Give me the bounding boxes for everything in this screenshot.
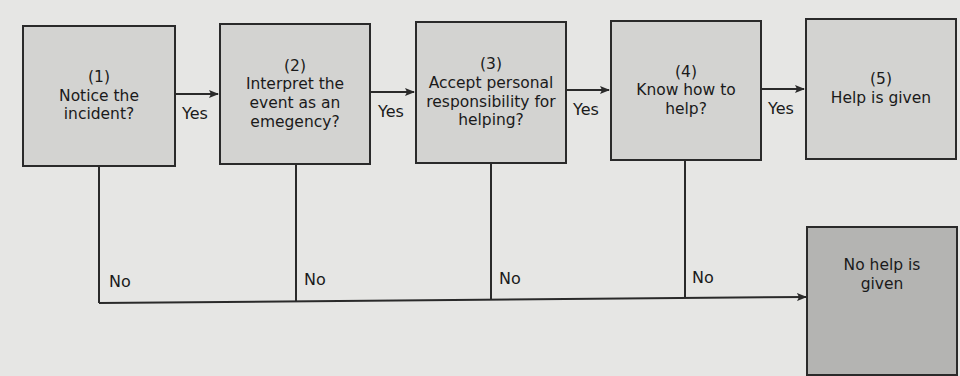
- no-help-box: No help is given: [806, 226, 958, 376]
- no-label-1: No: [109, 274, 131, 290]
- no-label-4: No: [692, 270, 714, 286]
- step-box-5: (5) Help is given: [805, 18, 957, 160]
- step-number: (2): [284, 57, 306, 76]
- step-number: (4): [675, 63, 697, 82]
- step-box-2: (2) Interpret the event as an emegency?: [219, 23, 371, 165]
- no-bus-arrow: [99, 297, 806, 303]
- step-box-3: (3) Accept personal responsibility for h…: [415, 21, 567, 164]
- step-box-4: (4) Know how to help?: [610, 20, 762, 161]
- step-text: Interpret the event as an emegency?: [246, 75, 344, 131]
- step-box-1: (1) Notice the incident?: [22, 25, 176, 167]
- step-text: Accept personal responsibility for helpi…: [426, 74, 555, 130]
- yes-label-2: Yes: [378, 104, 404, 120]
- no-help-text: No help is given: [844, 256, 921, 293]
- step-number: (3): [480, 55, 502, 74]
- step-text: Help is given: [831, 89, 931, 108]
- no-label-3: No: [499, 271, 521, 287]
- step-number: (1): [88, 68, 110, 87]
- step-text: Notice the incident?: [59, 87, 139, 124]
- step-text: Know how to help?: [636, 81, 736, 118]
- yes-label-1: Yes: [182, 106, 208, 122]
- yes-label-4: Yes: [768, 101, 794, 117]
- step-number: (5): [870, 70, 892, 89]
- no-label-2: No: [304, 272, 326, 288]
- yes-label-3: Yes: [573, 102, 599, 118]
